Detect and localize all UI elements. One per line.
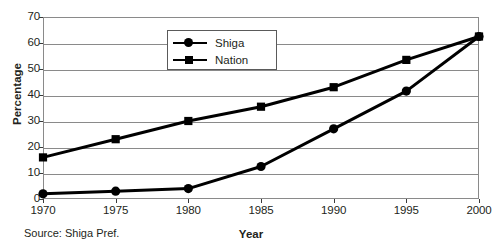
y-tick-mark	[39, 95, 43, 96]
x-tick-mark	[406, 199, 407, 203]
legend-label-nation: Nation	[207, 54, 248, 66]
legend-item-shiga: Shiga	[168, 34, 276, 51]
gridline	[44, 70, 478, 71]
chart-figure: 010203040506070 197019751980198519901995…	[0, 0, 502, 249]
x-tick-label: 1995	[379, 205, 433, 217]
x-tick-mark	[116, 199, 117, 203]
legend-marker-square-icon	[173, 53, 207, 67]
gridline	[44, 122, 478, 123]
y-tick-mark	[39, 121, 43, 122]
x-tick-mark	[188, 199, 189, 203]
gridline	[44, 174, 478, 175]
y-tick-label: 0	[4, 193, 40, 205]
gridline	[44, 96, 478, 97]
y-tick-mark	[39, 43, 43, 44]
x-tick-mark	[261, 199, 262, 203]
y-tick-mark	[39, 17, 43, 18]
y-tick-mark	[39, 69, 43, 70]
x-tick-mark	[334, 199, 335, 203]
y-axis-title: Percentage	[11, 44, 23, 144]
legend-item-nation: Nation	[168, 51, 276, 68]
legend-label-shiga: Shiga	[207, 37, 244, 49]
gridline	[44, 148, 478, 149]
x-tick-mark	[479, 199, 480, 203]
y-tick-label: 70	[4, 11, 40, 23]
x-tick-label: 2000	[452, 205, 502, 217]
legend-marker-circle-icon	[173, 36, 207, 50]
x-axis-tick-labels: 1970197519801985199019952000	[0, 205, 502, 221]
chart-legend: Shiga Nation	[167, 30, 277, 70]
x-tick-label: 1985	[234, 205, 288, 217]
x-tick-mark	[43, 199, 44, 203]
y-tick-label: 10	[4, 167, 40, 179]
source-note: Source: Shiga Pref.	[24, 227, 119, 239]
x-tick-label: 1970	[16, 205, 70, 217]
x-tick-label: 1975	[89, 205, 143, 217]
y-tick-mark	[39, 147, 43, 148]
x-tick-label: 1980	[161, 205, 215, 217]
y-tick-mark	[39, 173, 43, 174]
x-tick-label: 1990	[307, 205, 361, 217]
